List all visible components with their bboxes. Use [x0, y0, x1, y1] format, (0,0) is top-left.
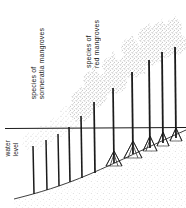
- label-sonneratia-mangroves: species of sonneratia mangroves: [30, 28, 46, 99]
- water-level-line: [5, 128, 186, 129]
- mangrove-zonation-figure: species of sonneratia mangroves species …: [0, 0, 186, 208]
- label-sonneratia-line1: species of: [30, 28, 38, 99]
- label-sonneratia-line2: sonneratia mangroves: [38, 28, 46, 99]
- label-water-line2: level: [12, 140, 20, 156]
- label-water-line1: water: [4, 140, 12, 156]
- label-red-line2: red mangroves: [93, 20, 101, 68]
- label-red-line1: species of: [85, 20, 93, 68]
- label-red-mangroves: species of red mangroves: [85, 20, 101, 68]
- label-water-level: water level: [4, 140, 19, 156]
